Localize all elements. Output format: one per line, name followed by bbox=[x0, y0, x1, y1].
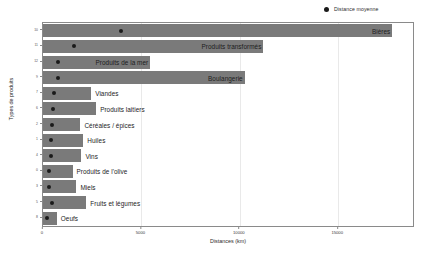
y-axis-tick: 1 bbox=[36, 135, 42, 143]
distance-moyenne-dot[interactable] bbox=[45, 216, 49, 220]
y-axis-tick: 7 bbox=[36, 88, 42, 96]
y-axis-title: Types de produits bbox=[8, 64, 14, 134]
bar-value-label: Produits laitiers bbox=[100, 105, 145, 112]
y-axis-tick-mark bbox=[40, 29, 42, 30]
y-axis-tick-mark bbox=[40, 154, 42, 155]
bar-value-label: Oeufs bbox=[61, 215, 78, 222]
bar-value-label: Bières bbox=[372, 27, 390, 34]
x-axis-tick-mark bbox=[140, 227, 141, 229]
legend-label-distance-moyenne: Distance moyenne bbox=[334, 6, 379, 12]
y-axis-tick-mark bbox=[40, 107, 42, 108]
distance-moyenne-dot[interactable] bbox=[72, 44, 76, 48]
y-axis-tick-label: 11 bbox=[34, 43, 38, 47]
y-axis-tick-label: 8 bbox=[36, 215, 38, 219]
distance-moyenne-dot[interactable] bbox=[47, 169, 51, 173]
bar-value-label: Produits transformés bbox=[201, 43, 261, 50]
y-axis-ticks: 1011129762140358 bbox=[0, 22, 42, 227]
distance-moyenne-dot[interactable] bbox=[50, 123, 54, 127]
x-axis-tick: 10000 bbox=[233, 227, 245, 235]
y-axis-tick-mark bbox=[40, 139, 42, 140]
bar-value-label: Fruits et légumes bbox=[90, 199, 140, 206]
plot-area: BièresProduits transformésProduits de la… bbox=[42, 22, 414, 227]
y-axis-tick-mark bbox=[40, 170, 42, 171]
distance-moyenne-dot[interactable] bbox=[50, 201, 54, 205]
y-axis-tick-mark bbox=[40, 61, 42, 62]
bar-value-label: Viandes bbox=[95, 90, 118, 97]
x-axis-tick: 5000 bbox=[136, 227, 145, 235]
y-axis-tick: 10 bbox=[34, 26, 42, 34]
y-axis-tick: 6 bbox=[36, 104, 42, 112]
x-axis-tick-label: 15000 bbox=[331, 230, 343, 235]
legend-dot-icon bbox=[324, 7, 329, 12]
y-axis-tick-mark bbox=[40, 185, 42, 186]
y-axis-tick-mark bbox=[40, 76, 42, 77]
distance-moyenne-dot[interactable] bbox=[52, 91, 56, 95]
bar-value-label: Céréales / épices bbox=[84, 121, 134, 128]
bar-row[interactable]: Bières bbox=[43, 24, 413, 37]
distance-moyenne-dot[interactable] bbox=[47, 185, 51, 189]
y-axis-tick-mark bbox=[40, 45, 42, 46]
x-axis-tick-mark bbox=[42, 227, 43, 229]
y-axis-tick-label: 5 bbox=[36, 200, 38, 204]
y-axis-tick: 2 bbox=[36, 120, 42, 128]
x-axis-tick-mark bbox=[238, 227, 239, 229]
distance-moyenne-dot[interactable] bbox=[51, 107, 55, 111]
bar-row[interactable]: Boulangerie bbox=[43, 71, 413, 84]
y-axis-tick: 4 bbox=[36, 151, 42, 159]
bar-row[interactable]: Céréales / épices bbox=[43, 118, 413, 131]
y-axis-tick-label: 12 bbox=[34, 59, 38, 63]
bar-series-layer: BièresProduits transformésProduits de la… bbox=[43, 23, 413, 226]
bar-row[interactable]: Produits de l'olive bbox=[43, 165, 413, 178]
bar-row[interactable]: Produits transformés bbox=[43, 40, 413, 53]
bar-row[interactable]: Oeufs bbox=[43, 212, 413, 225]
y-axis-tick-label: 2 bbox=[36, 122, 38, 126]
x-axis-tick-label: 0 bbox=[41, 230, 43, 235]
distance-moyenne-dot[interactable] bbox=[119, 29, 123, 33]
y-axis-tick-label: 4 bbox=[36, 153, 38, 157]
bar-row[interactable]: Vins bbox=[43, 149, 413, 162]
x-axis-title: Distances (km) bbox=[42, 238, 414, 244]
y-axis-tick: 5 bbox=[36, 198, 42, 206]
y-axis-tick-label: 6 bbox=[36, 106, 38, 110]
bar-value-label: Miels bbox=[80, 183, 95, 190]
x-axis-tick: 0 bbox=[41, 227, 43, 235]
bar-value-label: Vins bbox=[85, 152, 98, 159]
y-axis-tick: 9 bbox=[36, 73, 42, 81]
distance-moyenne-dot[interactable] bbox=[49, 154, 53, 158]
x-axis-tick-label: 10000 bbox=[233, 230, 245, 235]
bar-row[interactable]: Produits laitiers bbox=[43, 102, 413, 115]
bar-row[interactable]: Miels bbox=[43, 180, 413, 193]
y-axis-tick-label: 7 bbox=[36, 90, 38, 94]
bar-value-label: Produits de l'olive bbox=[77, 168, 128, 175]
bar-row[interactable]: Viandes bbox=[43, 87, 413, 100]
x-axis-tick-label: 5000 bbox=[136, 230, 145, 235]
y-axis-tick: 0 bbox=[36, 166, 42, 174]
y-axis-tick-mark bbox=[40, 92, 42, 93]
y-axis-tick-label: 9 bbox=[36, 75, 38, 79]
x-axis-tick: 15000 bbox=[331, 227, 343, 235]
bar-row[interactable]: Fruits et légumes bbox=[43, 196, 413, 209]
bar-value-label: Huiles bbox=[87, 137, 105, 144]
bar-row[interactable]: Huiles bbox=[43, 134, 413, 147]
bar[interactable] bbox=[43, 87, 91, 100]
distance-moyenne-dot[interactable] bbox=[56, 76, 60, 80]
bar[interactable] bbox=[43, 118, 80, 131]
y-axis-tick: 3 bbox=[36, 182, 42, 190]
bar-row[interactable]: Produits de la mer bbox=[43, 56, 413, 69]
y-axis-tick-label: 10 bbox=[34, 28, 38, 32]
y-axis-tick-label: 0 bbox=[36, 168, 38, 172]
y-axis-tick-mark bbox=[40, 201, 42, 202]
x-axis-tick-mark bbox=[337, 227, 338, 229]
y-axis-tick-mark bbox=[40, 123, 42, 124]
y-axis-tick: 11 bbox=[34, 41, 42, 49]
distance-moyenne-dot[interactable] bbox=[56, 60, 60, 64]
y-axis-tick: 12 bbox=[34, 57, 42, 65]
distance-moyenne-dot[interactable] bbox=[49, 138, 53, 142]
y-axis-tick: 8 bbox=[36, 213, 42, 221]
y-axis-tick-label: 1 bbox=[36, 137, 38, 141]
bar-value-label: Produits de la mer bbox=[96, 59, 149, 66]
bar-value-label: Boulangerie bbox=[208, 74, 243, 81]
bar[interactable] bbox=[43, 24, 392, 37]
chart-legend: Distance moyenne bbox=[324, 6, 379, 12]
y-axis-tick-label: 3 bbox=[36, 184, 38, 188]
